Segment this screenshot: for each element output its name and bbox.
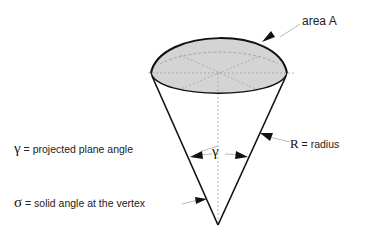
gamma-description: projected plane angle xyxy=(33,143,133,155)
area-label: area A xyxy=(302,14,337,28)
sigma-definition: σ = solid angle at the vertex xyxy=(14,194,145,211)
radius-description: radius xyxy=(311,138,340,150)
sigma-symbol: σ xyxy=(14,194,22,210)
sigma-description: solid angle at the vertex xyxy=(34,197,145,209)
sigma-equals: = xyxy=(25,197,31,209)
spherical-cap xyxy=(151,38,287,93)
cone-left-edge xyxy=(152,76,218,225)
radius-definition: R = radius xyxy=(290,136,339,152)
cone-right-edge xyxy=(218,76,286,225)
gamma-arrow-left-icon xyxy=(190,151,203,159)
gamma-equals: = xyxy=(24,143,30,155)
area-arrow-icon xyxy=(262,31,275,42)
radius-symbol: R xyxy=(290,136,299,151)
gamma-arrow-right-icon xyxy=(235,151,248,159)
radius-equals: = xyxy=(302,138,308,150)
gamma-symbol: γ xyxy=(14,140,21,156)
area-leader xyxy=(280,24,300,37)
gamma-definition: γ = projected plane angle xyxy=(14,140,133,157)
gamma-angle-label: γ xyxy=(212,143,219,160)
radius-arrow-icon xyxy=(260,133,273,141)
